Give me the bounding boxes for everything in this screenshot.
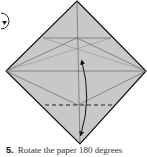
- step-caption: 5. Rotate the paper 180 degrees: [6, 144, 122, 156]
- paper-diamond: [6, 1, 146, 144]
- rotate-symbol-icon: [1, 13, 9, 29]
- step-number: 5.: [6, 145, 14, 155]
- origami-diagram: [0, 0, 147, 147]
- step-instruction: Rotate the paper 180 degrees: [18, 145, 122, 155]
